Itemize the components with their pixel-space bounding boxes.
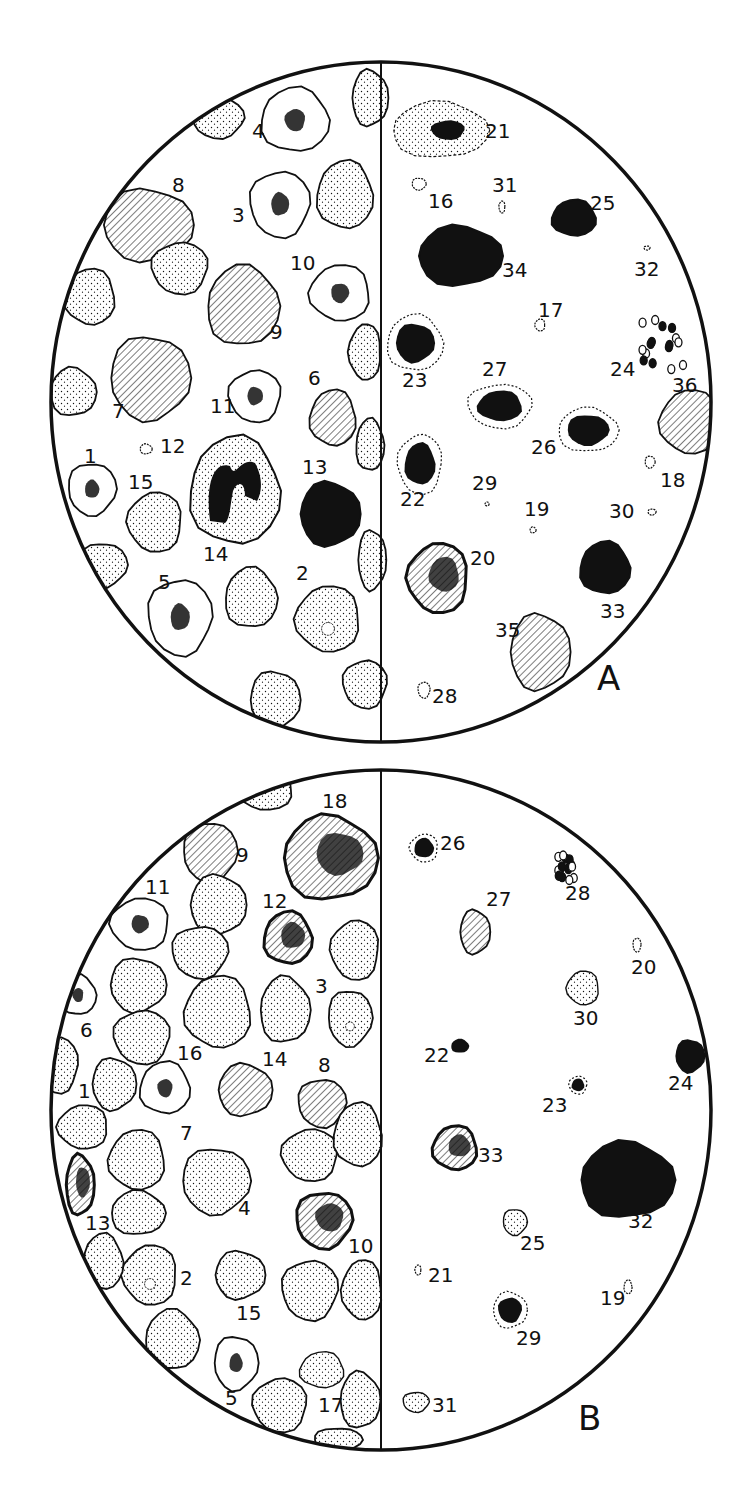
cell-a-15 — [126, 492, 181, 551]
red-blood-cell — [80, 544, 128, 588]
red-blood-cell — [51, 367, 97, 415]
cell-b-20 — [633, 938, 641, 952]
cell-label: 22 — [424, 1043, 449, 1067]
cell-label: 20 — [470, 546, 495, 570]
cell-label: 12 — [160, 434, 185, 458]
cell-label: 5 — [158, 570, 171, 594]
red-blood-cell — [184, 976, 251, 1048]
red-blood-cell — [93, 1058, 137, 1111]
cell-b-12 — [264, 911, 313, 964]
cell-label: 27 — [482, 357, 507, 381]
cell-label: 17 — [538, 298, 563, 322]
cell-label: 4 — [252, 119, 265, 143]
cell-label: 5 — [225, 1386, 238, 1410]
cell-label: 24 — [610, 357, 635, 381]
cell-a-31 — [499, 201, 505, 213]
cell-label: 27 — [486, 887, 511, 911]
cell-label: 1 — [84, 444, 97, 468]
cell-a-28 — [418, 682, 430, 698]
cell-label: 15 — [236, 1301, 261, 1325]
red-blood-cell — [282, 1261, 338, 1322]
cell-a-30 — [648, 509, 656, 515]
cell-a-26 — [559, 407, 619, 451]
red-blood-cell — [330, 920, 379, 980]
cell-a-18 — [645, 456, 655, 468]
panel-b-cells — [38, 770, 705, 1452]
red-blood-cell — [172, 927, 228, 980]
cell-label: 26 — [531, 435, 556, 459]
cell-label: 23 — [542, 1093, 567, 1117]
cell-label: 25 — [520, 1231, 545, 1255]
red-blood-cell — [348, 324, 380, 379]
cell-a-19 — [530, 527, 536, 533]
cell-b-31 — [403, 1392, 429, 1412]
cell-label: 16 — [177, 1041, 202, 1065]
cell-a-29 — [485, 502, 489, 506]
cell-label: 15 — [128, 470, 153, 494]
cell-a-23 — [388, 314, 444, 370]
cell-label: 8 — [172, 173, 185, 197]
panel-b-letter: B — [578, 1398, 601, 1438]
cell-a-11 — [228, 370, 280, 422]
red-blood-cell — [341, 1260, 382, 1320]
cell-label: 3 — [232, 203, 245, 227]
cell-label: 10 — [348, 1234, 373, 1258]
cell-label: 3 — [315, 974, 328, 998]
panel-b: 1891112631614817413102155172628272030222… — [38, 770, 711, 1453]
cell-label: 12 — [262, 889, 287, 913]
cell-label: 4 — [238, 1196, 251, 1220]
cell-b-26 — [409, 834, 437, 862]
cell-label: 20 — [631, 955, 656, 979]
red-blood-cell — [64, 269, 115, 325]
red-blood-cell — [112, 1190, 166, 1234]
cell-label: 6 — [80, 1018, 93, 1042]
red-blood-cell — [226, 567, 278, 627]
cell-b-30 — [566, 971, 598, 1005]
cell-label: 24 — [668, 1071, 693, 1095]
cell-label: 1 — [78, 1079, 91, 1103]
cell-b-18 — [284, 814, 378, 899]
red-blood-cell — [83, 1233, 123, 1289]
red-blood-cell — [352, 69, 388, 127]
cell-label: 11 — [210, 394, 235, 418]
cell-label: 28 — [432, 684, 457, 708]
red-blood-cell — [317, 160, 373, 229]
cell-label: 2 — [180, 1266, 193, 1290]
cell-label: 10 — [290, 251, 315, 275]
cell-label: 32 — [628, 1209, 653, 1233]
cell-label: 8 — [318, 1053, 331, 1077]
red-blood-cell — [151, 242, 207, 294]
cell-label: 31 — [492, 173, 517, 197]
cell-a-27 — [468, 384, 532, 429]
cell-label: 21 — [485, 119, 510, 143]
cell-a-3 — [250, 172, 311, 239]
cell-a-12 — [140, 444, 152, 454]
cell-label: 11 — [145, 875, 170, 899]
cell-label: 36 — [672, 373, 697, 397]
red-blood-cell — [252, 1378, 306, 1432]
cell-a-1 — [69, 465, 117, 516]
cell-label: 32 — [634, 257, 659, 281]
cell-label: 33 — [600, 599, 625, 623]
red-blood-cell — [114, 1010, 170, 1064]
cell-b-10 — [297, 1193, 353, 1249]
cell-b-27 — [460, 909, 490, 954]
cell-label: 13 — [302, 455, 327, 479]
cell-label: 33 — [478, 1143, 503, 1167]
cell-a-34 — [419, 225, 503, 287]
cell-b-21 — [415, 1265, 421, 1275]
cell-b-16 — [140, 1061, 190, 1114]
cell-b-17 — [300, 1352, 344, 1388]
cell-label: 18 — [322, 789, 347, 813]
cell-label: 17 — [318, 1393, 343, 1417]
cell-label: 13 — [85, 1211, 110, 1235]
cell-label: 2 — [296, 561, 309, 585]
red-blood-cell — [108, 1130, 165, 1190]
red-blood-cell — [261, 975, 311, 1041]
cell-label: 30 — [609, 499, 634, 523]
cell-label: 34 — [502, 258, 527, 282]
cell-a-6 — [310, 389, 356, 445]
red-blood-cell — [358, 530, 386, 592]
cell-label: 14 — [262, 1047, 287, 1071]
cell-label: 7 — [112, 399, 125, 423]
